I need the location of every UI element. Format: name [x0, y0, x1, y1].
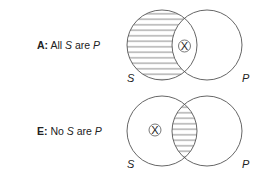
- set-label-p: P: [242, 158, 250, 170]
- set-label-s: S: [127, 72, 135, 84]
- venn-diagram-a: X S P: [120, 5, 250, 85]
- shaded-region-s-only: [120, 5, 220, 85]
- set-label-s: S: [127, 158, 135, 170]
- set-label-p: P: [242, 72, 250, 84]
- x-mark-icon: X: [181, 40, 189, 52]
- venn-diagram-e: X S P: [127, 96, 250, 170]
- venn-diagrams: X S P X S P: [0, 0, 263, 175]
- x-mark-icon: X: [151, 124, 159, 136]
